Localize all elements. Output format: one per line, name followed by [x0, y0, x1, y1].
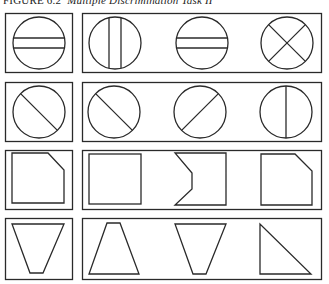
- row-3-choice-1-square-icon[interactable]: [89, 154, 141, 204]
- row-2-choice-2-circle-slash-icon[interactable]: [174, 86, 226, 138]
- row-4: [6, 219, 322, 280]
- row-1-sample-circle-two-horizontal-lines-icon: [13, 17, 65, 69]
- row-1-choice-2-circle-two-horizontal-lines-icon[interactable]: [176, 17, 228, 69]
- row-3-choices-frame: [83, 151, 322, 210]
- row-2: [6, 83, 322, 142]
- row-1-choice-3-circle-x-cross-icon[interactable]: [261, 17, 313, 69]
- row-3-choice-3-square-cut-corner-icon[interactable]: [261, 154, 312, 205]
- row-4-sample-inverted-trapezoid-icon: [12, 224, 64, 273]
- row-4-choice-3-right-triangle-icon[interactable]: [260, 224, 311, 274]
- row-1-choice-1-circle-two-vertical-lines-icon[interactable]: [89, 17, 141, 69]
- row-4-choice-1-upright-trapezoid-icon[interactable]: [89, 223, 139, 274]
- row-3-choice-2-notched-square-icon[interactable]: [175, 153, 226, 205]
- row-2-choice-3-circle-vertical-line-icon[interactable]: [260, 86, 312, 138]
- row-3-sample-square-cut-corner-icon: [12, 153, 64, 203]
- row-1-sample-frame: [6, 14, 73, 73]
- row-3-sample-frame: [6, 151, 73, 210]
- row-4-choice-2-inverted-trapezoid-icon[interactable]: [175, 224, 226, 274]
- row-3: [6, 151, 322, 210]
- row-1: [6, 14, 322, 73]
- row-2-sample-circle-backslash-icon: [13, 86, 65, 138]
- row-2-choice-1-circle-backslash-icon[interactable]: [88, 86, 140, 138]
- discrimination-task-figure: [0, 0, 329, 284]
- row-1-choices-frame: [83, 14, 322, 73]
